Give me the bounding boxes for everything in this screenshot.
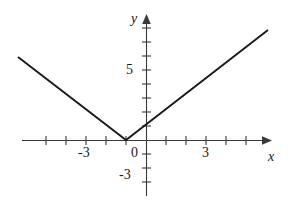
x-axis-arrowhead (262, 136, 272, 145)
curve-absolute-value (18, 30, 268, 140)
y-axis (142, 14, 151, 196)
y-axis-label: y (131, 12, 137, 26)
y-tick-label-pos5: 5 (126, 63, 133, 77)
absolute-value-graph-figure: y x -3 3 0 5 -3 (0, 0, 290, 210)
plot-area (0, 0, 290, 210)
x-axis-label: x (268, 150, 274, 164)
x-tick-label-neg3: -3 (78, 146, 90, 160)
x-tick-label-pos3: 3 (202, 146, 209, 160)
y-tick-label-neg3: -3 (119, 168, 131, 182)
y-axis-arrowhead (142, 14, 151, 24)
origin-label: 0 (131, 146, 138, 160)
